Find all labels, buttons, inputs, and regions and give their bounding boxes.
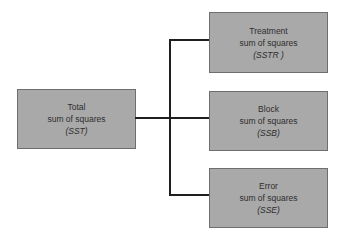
total-box-abbr: (SST): [65, 125, 87, 137]
total-box-title: Total: [68, 101, 86, 113]
connector-to-error: [169, 194, 210, 196]
treatment-sum-of-squares-box: Treatment sum of squares (SSTR ): [209, 12, 328, 73]
error-sum-of-squares-box: Error sum of squares (SSE): [209, 168, 328, 228]
connector-vertical-trunk: [169, 39, 171, 196]
total-box-subtitle: sum of squares: [47, 113, 105, 125]
total-sum-of-squares-box: Total sum of squares (SST): [17, 89, 136, 149]
connector-to-treatment: [169, 39, 210, 41]
treatment-box-title: Treatment: [249, 25, 287, 37]
block-box-subtitle: sum of squares: [239, 115, 297, 127]
error-box-subtitle: sum of squares: [239, 192, 297, 204]
connector-source-to-trunk: [135, 117, 210, 119]
treatment-box-abbr: (SSTR ): [253, 49, 284, 61]
block-sum-of-squares-box: Block sum of squares (SSB): [209, 91, 328, 151]
error-box-abbr: (SSE): [257, 204, 280, 216]
error-box-title: Error: [259, 180, 278, 192]
block-box-title: Block: [258, 103, 279, 115]
block-box-abbr: (SSB): [257, 127, 280, 139]
treatment-box-subtitle: sum of squares: [239, 37, 297, 49]
